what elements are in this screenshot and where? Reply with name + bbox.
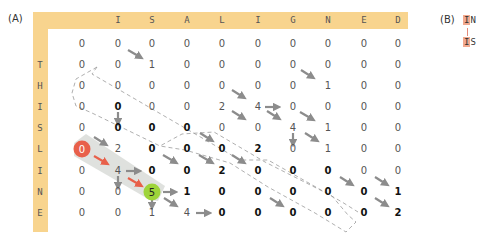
matrix-cell: 0 [144,38,160,50]
matrix-cell: 0 [285,38,301,50]
row-header-3: I [37,102,42,112]
matrix-cell: 0 [356,59,372,71]
matrix-cell: 0 [390,38,406,50]
col-header-5: I [255,15,260,25]
matrix-cell: 0 [285,80,301,92]
matrix-cell: 0 [144,122,160,134]
matrix-cell: 0 [214,38,230,50]
matrix-cell: 0 [320,186,336,198]
matrix-cell: 0 [320,207,336,219]
matrix-cell: 0 [356,122,372,134]
matrix-cell: 1 [320,143,336,155]
alignment-bottom: IS [463,37,476,47]
matrix-cell: 0 [320,38,336,50]
row-header-5: L [37,144,42,154]
matrix-cell: 0 [110,59,126,71]
matrix-cell: 0 [285,165,301,177]
matrix-cell: 0 [74,122,90,134]
matrix-cell: 0 [214,186,230,198]
matrix-cell: 0 [74,165,90,177]
matrix-cell: 0 [74,38,90,50]
matrix-cell: 0 [179,101,195,113]
matrix-cell: 1 [144,59,160,71]
col-header-8: E [361,15,366,25]
matrix-cell: 0 [390,59,406,71]
matrix-cell: 0 [250,38,266,50]
matrix-cell: 0 [390,80,406,92]
col-header-6: G [290,15,295,25]
matrix-cell: 0 [144,143,160,155]
col-header-9: D [395,15,400,25]
matrix-cell: 2 [110,143,126,155]
matrix-cell: 4 [110,165,126,177]
matrix-cell: 0 [356,143,372,155]
matrix-cell: 0 [250,207,266,219]
row-header-8: E [37,208,42,218]
matrix-cell: 4 [250,101,266,113]
matrix-cell: 0 [250,165,266,177]
matrix-cell: 0 [285,101,301,113]
matrix-cell: 0 [179,59,195,71]
matrix-cell: 0 [179,165,195,177]
matrix-cell: 1 [390,186,406,198]
matrix-cell: 0 [214,59,230,71]
matrix-cell: 0 [356,101,372,113]
matrix-cell: 0 [285,59,301,71]
col-header-3: A [184,15,189,25]
matrix-cell: 0 [214,122,230,134]
matrix-cell: 0 [110,207,126,219]
matrix-cell: 0 [110,186,126,198]
matrix-cell: 0 [110,80,126,92]
traceback-max-cell: 5 [144,184,161,201]
alignment-top: IN [463,15,476,25]
matrix-cell: 1 [179,186,195,198]
matrix-cell: 0 [320,59,336,71]
matrix-cell: 0 [144,101,160,113]
matrix-cell: 0 [144,80,160,92]
row-header-4: S [37,123,42,133]
matrix-cell: 1 [144,207,160,219]
matrix-cell: 1 [320,122,336,134]
matrix-cell: 4 [285,122,301,134]
matrix-cell: 0 [110,38,126,50]
matrix-cell: 2 [214,101,230,113]
matrix-cell: 0 [110,101,126,113]
matrix-cell: 2 [214,165,230,177]
matrix-cell: 0 [250,59,266,71]
matrix-cell: 0 [285,186,301,198]
row-header-1: T [37,60,42,70]
matrix-cell: 0 [74,186,90,198]
matrix-cell: 0 [320,165,336,177]
matrix-cell: 0 [144,165,160,177]
matrix-cell: 0 [214,143,230,155]
alignment-match-line [467,28,468,36]
row-header-7: N [37,187,42,197]
col-header-1: I [115,15,120,25]
matrix-cell: 2 [250,143,266,155]
matrix-cell: 0 [179,122,195,134]
matrix-cell: 0 [74,59,90,71]
col-header-2: S [149,15,154,25]
matrix-cell: 0 [356,186,372,198]
matrix-cell: 0 [74,207,90,219]
matrix-cell: 1 [320,80,336,92]
matrix-cell: 0 [356,207,372,219]
matrix-cell: 0 [250,122,266,134]
alignment-top-rest: N [470,15,475,25]
matrix-cell: 0 [285,207,301,219]
matrix-cell: 0 [179,143,195,155]
matrix-cell: 0 [74,80,90,92]
col-header-4: L [219,15,224,25]
row-header-2: H [37,81,42,91]
matrix-cell: 0 [179,38,195,50]
matrix-cell: 0 [390,122,406,134]
matrix-cell: 4 [179,207,195,219]
col-header-7: N [325,15,330,25]
matrix-cell: 0 [285,143,301,155]
matrix-cell: 0 [320,101,336,113]
row-header-6: I [37,166,42,176]
matrix-cell: 0 [214,207,230,219]
matrix-cell: 0 [356,165,372,177]
matrix-cell: 0 [74,101,90,113]
matrix-cell: 0 [250,80,266,92]
